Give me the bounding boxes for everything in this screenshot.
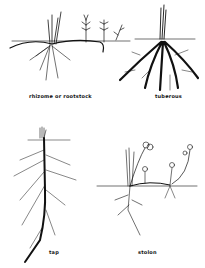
rhizome-label: rhizome or rootstock [29, 93, 92, 99]
tap-label: tap [49, 249, 59, 255]
rhizome-drawing [10, 12, 130, 80]
root-drawings [0, 0, 205, 268]
tuberous-drawing [120, 5, 198, 90]
tap-drawing [14, 127, 76, 262]
stolon-label: stolon [138, 249, 157, 255]
stolon-drawing [97, 142, 197, 235]
tuberous-label: tuberous [155, 93, 182, 99]
root-types-diagram: rhizome or rootstock tuberous tap stolon [0, 0, 205, 268]
